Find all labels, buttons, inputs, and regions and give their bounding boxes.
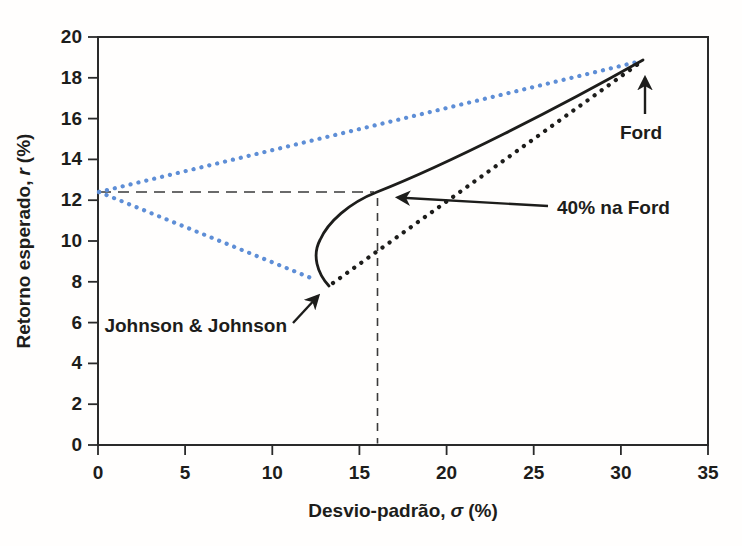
y-tick-8: 8 (71, 271, 82, 292)
ford-label: Ford (620, 122, 662, 143)
y-tick-12: 12 (61, 189, 82, 210)
x-tick-20: 20 (436, 462, 457, 483)
forty-percent-ford-arrow (398, 198, 548, 207)
y-tick-0: 0 (71, 434, 82, 455)
x-tick-35: 35 (697, 462, 719, 483)
y-tick-10: 10 (61, 230, 82, 251)
y-tick-16: 16 (61, 108, 82, 129)
x-tick-5: 5 (180, 462, 191, 483)
y-tick-2: 2 (71, 393, 82, 414)
x-axis-labels: 0 5 10 15 20 25 30 35 (93, 462, 719, 483)
plot-frame (98, 37, 708, 445)
black-dotted-correlation-line (333, 62, 641, 283)
chart-canvas: 0 2 4 6 8 10 12 14 16 18 20 0 5 10 15 20… (0, 0, 742, 546)
y-tick-4: 4 (71, 352, 82, 373)
x-tick-0: 0 (93, 462, 104, 483)
x-tick-10: 10 (262, 462, 283, 483)
forty-percent-ford-label: 40% na Ford (557, 197, 670, 218)
y-tick-6: 6 (71, 312, 82, 333)
y-tick-20: 20 (61, 26, 82, 47)
y-axis-title: Retorno esperado,r(%) (13, 134, 34, 349)
y-axis-labels: 0 2 4 6 8 10 12 14 16 18 20 (61, 26, 83, 455)
efficient-frontier-chart: 0 2 4 6 8 10 12 14 16 18 20 0 5 10 15 20… (0, 0, 742, 546)
blue-dotted-upper-line (99, 62, 637, 192)
x-axis-title: Desvio-padrão,σ(%) (308, 500, 497, 521)
johnson-johnson-arrow (293, 296, 318, 323)
blue-dotted-lower-line (99, 192, 316, 280)
y-tick-14: 14 (61, 148, 83, 169)
x-tick-15: 15 (349, 462, 371, 483)
x-axis-ticks (98, 445, 708, 455)
x-tick-25: 25 (523, 462, 545, 483)
y-tick-18: 18 (61, 67, 82, 88)
johnson-johnson-label: Johnson & Johnson (104, 315, 287, 336)
x-tick-30: 30 (610, 462, 631, 483)
y-axis-ticks (88, 37, 98, 445)
